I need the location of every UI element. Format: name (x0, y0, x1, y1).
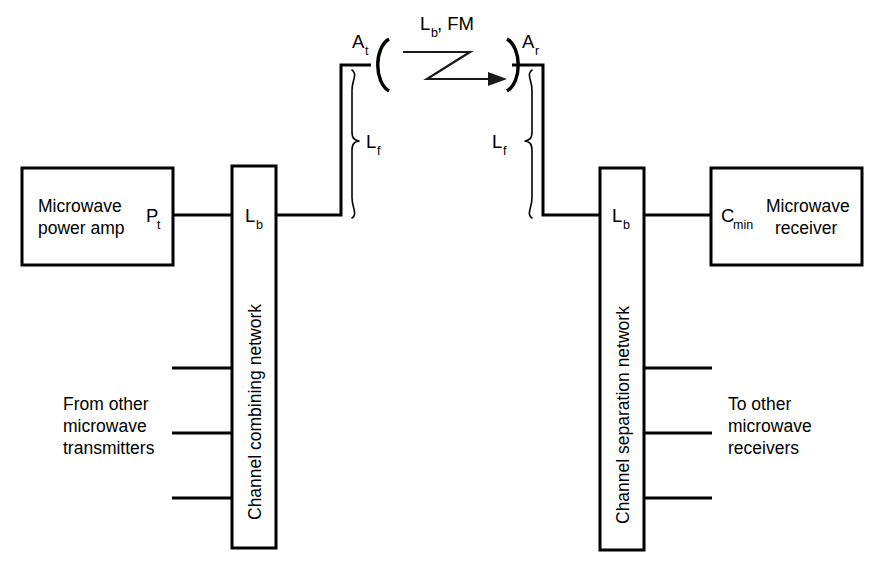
radio-path-zigzag (403, 52, 490, 79)
receiver-label-line2: receiver (775, 218, 837, 238)
transmit-feeder-subscript: f (377, 144, 381, 158)
receive-feeder-subscript: f (503, 144, 507, 158)
combining-loss-symbol: L (245, 205, 255, 226)
receive-feeder-symbol: L (492, 131, 502, 152)
transmit-branch-note-line3: transmitters (63, 438, 155, 458)
transmit-branch-note-line1: From other (63, 394, 149, 414)
transmit-antenna-symbol: A (352, 31, 365, 52)
amp-label-line1: Microwave (38, 196, 122, 216)
receive-branch-note-line3: receivers (728, 438, 799, 458)
diagram-canvas: Microwave power amp P t L b Channel comb… (0, 0, 880, 576)
channel-combining-network-label: Channel combining network (245, 304, 265, 520)
transmit-branch-note-line2: microwave (63, 416, 147, 436)
receive-antenna-symbol: A (522, 31, 535, 52)
combining-loss-subscript: b (256, 218, 263, 232)
transmit-feeder-symbol: L (366, 131, 376, 152)
transmit-feeder-brace (352, 70, 359, 218)
receive-branch-note-line1: To other (728, 394, 791, 414)
channel-separation-network-label: Channel separation network (613, 306, 633, 524)
radio-path-arrowhead (488, 72, 507, 86)
receive-feeder-line (512, 65, 600, 215)
transmit-antenna-subscript: t (365, 44, 369, 58)
path-loss-suffix: , FM (437, 13, 474, 34)
separation-loss-symbol: L (612, 205, 622, 226)
receive-feeder-brace (525, 70, 532, 218)
transmit-antenna-dish (378, 39, 389, 91)
path-loss-symbol: L (420, 13, 430, 34)
microwave-link-diagram: Microwave power amp P t L b Channel comb… (0, 0, 880, 576)
separation-loss-subscript: b (623, 218, 630, 232)
receive-antenna-subscript: r (535, 44, 539, 58)
min-carrier-subscript: min (733, 218, 753, 232)
receiver-label-line1: Microwave (766, 196, 850, 216)
transmit-power-subscript: t (157, 218, 161, 232)
amp-label-line2: power amp (38, 218, 125, 238)
receive-branch-note-line2: microwave (728, 416, 812, 436)
